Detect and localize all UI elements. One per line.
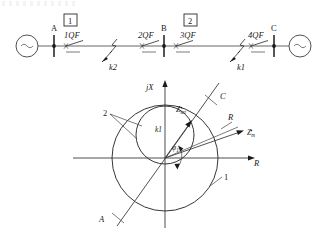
vector-z-set-overdot xyxy=(181,107,183,109)
breaker-4qf: 4QF xyxy=(248,30,268,52)
breaker-4qf-label: 4QF xyxy=(248,30,264,40)
figure-root: A B C 1QF xyxy=(0,0,330,244)
axis-jx-arrowhead xyxy=(162,80,167,87)
breaker-1qf-label: 1QF xyxy=(64,30,80,40)
vector-z-m-overdot xyxy=(251,130,253,132)
breaker-2qf-label: 2QF xyxy=(138,30,154,40)
bus-c-label: C xyxy=(271,23,277,33)
breaker-3qf: 3QF xyxy=(174,30,196,52)
characteristic-1-label: 1 xyxy=(224,172,228,182)
vector-z-set-label: Zset xyxy=(176,105,186,115)
fault-k1-label: k1 xyxy=(237,62,245,72)
line-c-endpoint-label: C xyxy=(220,91,226,101)
technical-figure: A B C 1QF xyxy=(0,0,330,244)
breaker-1qf: 1QF xyxy=(64,30,83,52)
breaker-2qf: 2QF xyxy=(138,30,159,52)
fault-point-k1: k1 xyxy=(155,125,162,134)
characteristic-2-label: 2 xyxy=(103,108,107,118)
axis-r-label: R xyxy=(253,158,260,168)
bus-a-label: A xyxy=(51,23,58,33)
axis-jx: jX xyxy=(145,80,168,228)
source-left xyxy=(16,35,38,57)
axis-jx-label: jX xyxy=(145,82,154,92)
line-a-endpoint-label: A xyxy=(98,214,105,224)
characteristic-1-callout: 1 xyxy=(210,172,228,186)
fault-point-k1-label: k1 xyxy=(155,125,162,134)
breaker-3qf-label: 3QF xyxy=(179,30,196,40)
vector-z-set-arrowhead xyxy=(185,120,192,128)
one-line-diagram: A B C 1QF xyxy=(16,14,311,72)
zone-box-1-label: 1 xyxy=(68,16,72,26)
bus-c: C xyxy=(271,23,277,57)
angle-phi1-arrow-end xyxy=(174,163,179,169)
vector-z-m-label: Zm xyxy=(247,128,255,138)
bus-a: A xyxy=(51,23,58,57)
angle-phi1-label: φ1 xyxy=(172,143,179,153)
zone-box-2-label: 2 xyxy=(188,16,192,26)
zone-box-1: 1 xyxy=(64,14,77,26)
bus-b-label: B xyxy=(161,23,167,33)
vector-z-m-arrowhead xyxy=(236,130,244,135)
impedance-plane-diagram: jX R 2 1 xyxy=(73,80,260,228)
bus-b: B xyxy=(161,23,167,57)
fault-k2: k2 xyxy=(102,39,118,72)
line-a-c: C A xyxy=(98,83,226,226)
angle-phi1: φ1 xyxy=(172,143,183,170)
vector-z-m: Zm xyxy=(165,128,255,158)
line-r-label: R xyxy=(227,112,234,122)
fault-k2-label: k2 xyxy=(109,62,118,72)
zone-box-2: 2 xyxy=(184,14,197,26)
fault-k1: k1 xyxy=(230,39,245,72)
source-right xyxy=(289,35,311,57)
